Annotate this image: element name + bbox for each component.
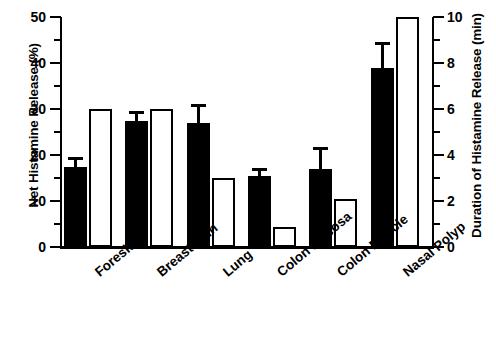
bar-duration-colon-mucosa (273, 227, 296, 247)
bar-duration-foreskin (89, 109, 112, 247)
right-axis-tick-minor-1 (433, 223, 440, 225)
bar-release-colon-mucosa (248, 176, 271, 247)
bar-duration-breast-skin (150, 109, 173, 247)
left-axis-tick-label-40: 40 (16, 56, 46, 70)
left-axis-tick-minor-5 (54, 223, 61, 225)
right-axis-tick-label-8: 8 (447, 56, 477, 70)
error-bar-cap-5 (375, 42, 390, 45)
bar-release-foreskin (64, 167, 87, 248)
left-axis-tick-label-20: 20 (16, 148, 46, 162)
plot-area (62, 17, 430, 247)
right-axis-tick-label-4: 4 (447, 148, 477, 162)
error-bar-cap-4 (313, 147, 328, 150)
left-axis-tick-minor-35 (54, 85, 61, 87)
left-axis-tick-label-30: 30 (16, 102, 46, 116)
error-bar-cap-2 (191, 104, 206, 107)
error-bar-cap-3 (252, 168, 267, 171)
error-bar-cap-0 (68, 157, 83, 160)
left-axis-tick-label-10: 10 (16, 194, 46, 208)
error-bar-stem-1 (135, 114, 138, 121)
error-bar-cap-1 (129, 111, 144, 114)
left-axis-tick-minor-45 (54, 39, 61, 41)
error-bar-stem-3 (258, 171, 261, 176)
right-axis-tick-major-4 (433, 154, 444, 156)
bar-duration-lung (212, 178, 235, 247)
right-axis-tick-major-8 (433, 62, 444, 64)
right-axis-tick-label-10: 10 (447, 10, 477, 24)
right-axis-tick-major-6 (433, 108, 444, 110)
bar-release-breast-skin (125, 121, 148, 248)
right-axis-tick-minor-9 (433, 39, 440, 41)
left-axis-tick-major-30 (50, 108, 61, 110)
left-axis-tick-major-40 (50, 62, 61, 64)
left-axis-tick-major-10 (50, 200, 61, 202)
right-axis-title: Duration of Histamine Release (min) (469, 8, 484, 244)
left-axis-tick-minor-25 (54, 131, 61, 133)
right-axis-tick-minor-5 (433, 131, 440, 133)
left-axis-tick-label-50: 50 (16, 10, 46, 24)
error-bar-stem-0 (74, 160, 77, 167)
right-axis-tick-major-2 (433, 200, 444, 202)
left-axis-tick-minor-15 (54, 177, 61, 179)
right-axis-tick-major-10 (433, 16, 444, 18)
category-label-lung: Lung (220, 247, 255, 280)
error-bar-stem-2 (197, 107, 200, 123)
error-bar-stem-4 (319, 150, 322, 168)
right-axis-tick-label-6: 6 (447, 102, 477, 116)
right-axis-tick-minor-7 (433, 85, 440, 87)
error-bar-stem-5 (381, 45, 384, 68)
histamine-release-chart: Net Histamine Release (%) Duration of Hi… (0, 0, 496, 343)
left-axis-tick-major-20 (50, 154, 61, 156)
right-axis-tick-label-2: 2 (447, 194, 477, 208)
left-axis-tick-major-50 (50, 16, 61, 18)
left-axis-tick-label-0: 0 (16, 240, 46, 254)
right-axis-tick-minor-3 (433, 177, 440, 179)
left-axis-tick-major-0 (50, 246, 61, 248)
